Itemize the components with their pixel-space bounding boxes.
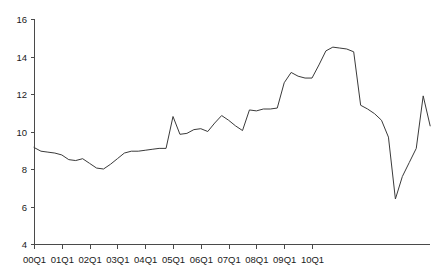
y-tick-label: 10: [16, 127, 27, 138]
y-tick-label: 14: [16, 52, 27, 63]
y-tick-label: 16: [16, 14, 27, 25]
y-axis: 46810121416: [16, 14, 34, 250]
data-series-group: [34, 47, 430, 199]
x-tick-label: 04Q1: [134, 254, 157, 265]
y-tick-label: 6: [22, 202, 27, 213]
chart-container: 46810121416 00Q101Q102Q103Q104Q105Q106Q1…: [0, 0, 443, 280]
x-tick-label: 02Q1: [78, 254, 101, 265]
y-tick-label: 8: [22, 164, 27, 175]
x-tick-label: 08Q1: [245, 254, 268, 265]
x-tick-label: 07Q1: [217, 254, 240, 265]
data-series-line: [34, 47, 430, 199]
x-axis: 00Q101Q102Q103Q104Q105Q106Q107Q108Q109Q1…: [23, 245, 430, 266]
x-tick-label: 01Q1: [51, 254, 74, 265]
x-tick-label: 03Q1: [106, 254, 129, 265]
x-tick-label: 10Q1: [301, 254, 324, 265]
x-tick-label: 06Q1: [190, 254, 213, 265]
x-tick-label: 00Q1: [23, 254, 46, 265]
line-chart: 46810121416 00Q101Q102Q103Q104Q105Q106Q1…: [0, 0, 443, 280]
x-tick-label: 05Q1: [162, 254, 185, 265]
x-tick-label: 09Q1: [273, 254, 296, 265]
y-tick-label: 12: [16, 89, 27, 100]
y-tick-label: 4: [22, 239, 27, 250]
